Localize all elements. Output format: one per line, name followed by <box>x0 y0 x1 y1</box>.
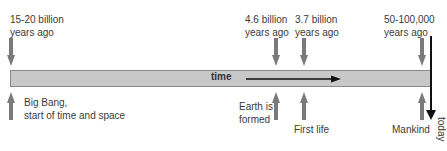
up-arrow-icon <box>300 92 308 120</box>
time-label-big-bang: 15-20 billion years ago <box>10 13 64 39</box>
event-label-first-life: First life <box>294 123 329 136</box>
event-label-line1: Earth is <box>239 100 273 113</box>
event-label-big-bang: Big Bang, start of time and space <box>24 96 125 122</box>
time-label-line2: years ago <box>245 26 289 39</box>
down-arrow-icon <box>272 38 280 66</box>
event-label-mankind: Mankind <box>392 123 430 136</box>
up-arrow-icon <box>272 92 280 120</box>
event-label-line1: Big Bang, <box>24 96 125 109</box>
time-label-mankind: 50-100,000 years ago <box>384 13 435 39</box>
event-label-earth: Earth is formed <box>239 100 273 126</box>
event-label-line1: First life <box>294 123 329 136</box>
time-label-line1: 15-20 billion <box>10 13 64 26</box>
down-arrow-icon <box>7 38 15 66</box>
event-label-line1: Mankind <box>392 123 430 136</box>
time-label-line1: 3.7 billion <box>295 13 339 26</box>
up-arrow-icon <box>418 92 426 120</box>
up-arrow-icon <box>7 92 15 120</box>
time-label-first-life: 3.7 billion years ago <box>295 13 339 39</box>
today-line <box>430 36 432 112</box>
down-arrow-icon <box>418 38 426 66</box>
time-label-earth: 4.6 billion years ago <box>245 13 289 39</box>
event-label-line2: start of time and space <box>24 109 125 122</box>
today-arrowhead-icon <box>426 110 436 120</box>
time-direction-arrow-icon <box>246 74 341 84</box>
down-arrow-icon <box>300 38 308 66</box>
time-label-line1: 4.6 billion <box>245 13 289 26</box>
timeline-bar-label: time <box>211 71 232 82</box>
event-label-line2: formed <box>239 113 273 126</box>
time-label-line2: years ago <box>10 26 64 39</box>
time-label-line2: years ago <box>384 26 435 39</box>
today-label: today <box>436 117 447 141</box>
time-label-line1: 50-100,000 <box>384 13 435 26</box>
